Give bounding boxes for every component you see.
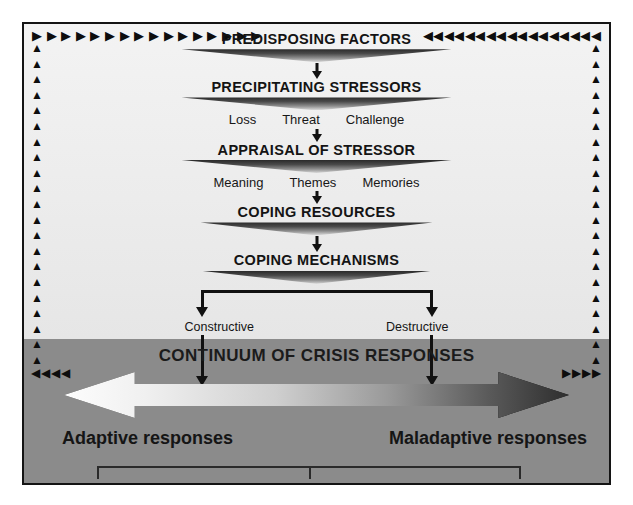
feedback-arrow-left-17: ▲ [31, 307, 43, 318]
flow-arrow-4 [311, 236, 323, 252]
feedback-arrow-left-6: ▲ [31, 136, 43, 147]
feedback-arrow-left-13: ▲ [31, 245, 43, 256]
stage-appraisal-of-stressor: APPRAISAL OF STRESSOR [152, 143, 482, 173]
feedback-arrow-left-0: ▲ [31, 42, 43, 53]
feedback-arrow-right-16: ▲ [590, 292, 602, 303]
scale-label-precrisis-functioning: Precrisis functioning [241, 484, 344, 485]
feedback-arrow-right-13: ▲ [590, 245, 602, 256]
feedback-arrow-right-12: ▲ [590, 229, 602, 240]
branch-label-constructive: Constructive [185, 320, 254, 334]
continuum-title: CONTINUUM OF CRISIS RESPONSES [24, 346, 609, 366]
funnel-wedge-2 [182, 97, 452, 110]
fork-arrowhead-right [426, 307, 438, 317]
feedback-arrow-right-10: ▲ [590, 198, 602, 209]
appraisal-type-memories: Memories [362, 176, 419, 190]
stressor-type-row: Loss Threat Challenge [152, 113, 482, 127]
funnel-wedge-5 [201, 271, 433, 284]
feedback-arrow-left-16: ▲ [31, 292, 43, 303]
stage-coping-mechanisms: COPING MECHANISMS [152, 253, 482, 283]
scale-tick-precrisis [309, 466, 311, 479]
stressor-type-loss: Loss [229, 113, 256, 127]
stage-coping-resources: COPING RESOURCES [152, 205, 482, 235]
stage-precipitating-stressors: PRECIPITATING STRESSORS [152, 80, 482, 110]
stage-title-predisposing-factors: PREDISPOSING FACTORS [152, 32, 482, 47]
feedback-arrow-left-7: ▲ [31, 151, 43, 162]
feedback-arrow-left-10: ▲ [31, 198, 43, 209]
funnel-wedge-4 [201, 222, 433, 235]
pole-label-maladaptive: Maladaptive responses [389, 428, 587, 449]
feedback-arrow-left-2: ▲ [31, 73, 43, 84]
funnel-wedge-3 [182, 160, 452, 173]
branch-label-destructive: Destructive [386, 320, 449, 334]
feedback-arrow-left-1: ▲ [31, 58, 43, 69]
feedback-track-bottom-left: ◀◀◀◀ [31, 366, 71, 380]
fork-leg-left [201, 290, 204, 308]
feedback-arrow-right-17: ▲ [590, 307, 602, 318]
stage-title-coping-resources: COPING RESOURCES [152, 205, 482, 220]
feedback-arrow-left-3: ▲ [31, 89, 43, 100]
crisis-response-diagram: ▶ ▶ ▶ ▶ ▶ ▶ ▶ ▶ ▶ ▶ ▶ ▶ ▶ ▶ ▶ ▶ ◀◀◀◀◀◀◀◀… [22, 22, 611, 485]
feedback-arrow-right-11: ▲ [590, 214, 602, 225]
feedback-track-left: ▲▲▲▲▲▲▲▲▲▲▲▲▲▲▲▲▲▲▲▲▲ [30, 42, 44, 365]
stressor-type-challenge: Challenge [346, 113, 405, 127]
fork-arrowhead-left [196, 307, 208, 317]
funnel-wedge-1 [182, 49, 452, 62]
feedback-arrow-right-2: ▲ [590, 73, 602, 84]
feedback-track-right: ▲▲▲▲▲▲▲▲▲▲▲▲▲▲▲▲▲▲▲▲▲ [589, 42, 603, 365]
stage-flow-column: PREDISPOSING FACTORS PRECIPITATING STRES… [152, 32, 482, 387]
feedback-arrow-left-9: ▲ [31, 182, 43, 193]
feedback-arrow-right-5: ▲ [590, 120, 602, 131]
continuum-scale-bracket [97, 466, 521, 480]
stage-title-coping-mechanisms: COPING MECHANISMS [152, 253, 482, 268]
feedback-arrow-left-14: ▲ [31, 260, 43, 271]
appraisal-type-themes: Themes [289, 176, 336, 190]
feedback-arrow-right-4: ▲ [590, 104, 602, 115]
feedback-arrow-right-1: ▲ [590, 58, 602, 69]
feedback-arrow-right-8: ▲ [590, 167, 602, 178]
stressor-type-threat: Threat [282, 113, 320, 127]
branch-label-row: Constructive Destructive [185, 320, 449, 334]
scale-label-disorganization: Disorganization [484, 484, 563, 485]
feedback-arrow-right-6: ▲ [590, 136, 602, 147]
feedback-arrow-left-8: ▲ [31, 167, 43, 178]
feedback-arrow-left-5: ▲ [31, 120, 43, 131]
feedback-arrow-right-7: ▲ [590, 151, 602, 162]
pole-label-adaptive: Adaptive responses [62, 428, 233, 449]
appraisal-type-row: Meaning Themes Memories [152, 176, 482, 190]
feedback-arrow-left-11: ▲ [31, 214, 43, 225]
scale-label-growth: Growth [64, 484, 101, 485]
feedback-arrow-right-18: ▲ [590, 323, 602, 334]
stage-title-precipitating-stressors: PRECIPITATING STRESSORS [152, 80, 482, 95]
feedback-arrow-right-3: ▲ [590, 89, 602, 100]
appraisal-type-meaning: Meaning [214, 176, 264, 190]
feedback-arrow-left-18: ▲ [31, 323, 43, 334]
feedback-track-bottom-right: ▶▶▶▶ [562, 366, 602, 380]
flow-arrow-3 [311, 191, 323, 204]
feedback-arrows-bottom-left: ◀◀◀◀ [31, 366, 71, 380]
stage-title-appraisal-of-stressor: APPRAISAL OF STRESSOR [152, 143, 482, 158]
flow-arrow-1 [311, 63, 323, 79]
fork-leg-right [430, 290, 433, 308]
feedback-arrow-right-14: ▲ [590, 260, 602, 271]
feedback-arrow-right-9: ▲ [590, 182, 602, 193]
feedback-arrow-left-12: ▲ [31, 229, 43, 240]
flow-arrow-2 [311, 129, 323, 142]
continuum-scale-labels: Growth Precrisis functioning Disorganiza… [64, 484, 563, 485]
feedback-arrow-right-15: ▲ [590, 276, 602, 287]
feedback-arrows-bottom-right: ▶▶▶▶ [562, 366, 602, 380]
feedback-arrow-left-4: ▲ [31, 104, 43, 115]
feedback-arrow-left-15: ▲ [31, 276, 43, 287]
fork-crossbar [201, 290, 433, 293]
stage-predisposing-factors: PREDISPOSING FACTORS [152, 32, 482, 62]
scale-tick-disorganization [519, 466, 521, 479]
feedback-arrow-right-0: ▲ [590, 42, 602, 53]
coping-branch-fork [201, 290, 433, 318]
scale-tick-growth [97, 466, 99, 479]
